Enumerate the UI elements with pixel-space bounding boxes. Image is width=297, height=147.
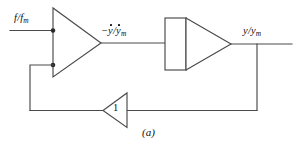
label-output-numerator: y bbox=[243, 25, 248, 36]
label-output-subscript: m bbox=[256, 29, 261, 38]
label-input-subscript: m bbox=[23, 16, 28, 25]
figure-caption: (a) bbox=[0, 126, 297, 138]
label-mid-numerator: y bbox=[108, 26, 113, 37]
summing-amplifier-body[interactable] bbox=[53, 8, 101, 77]
label-output-denominator: y bbox=[251, 25, 256, 36]
integrator-rectangle[interactable] bbox=[165, 18, 186, 70]
figure-container: f/fm −y/ym y/ym 1 (a) bbox=[0, 0, 297, 147]
summing-input-dot-top bbox=[51, 28, 56, 33]
label-output-signal: y/ym bbox=[243, 26, 261, 37]
label-mid-denominator: y bbox=[116, 26, 121, 37]
integrator-triangle[interactable] bbox=[186, 18, 231, 70]
label-mid-signal: −y/ym bbox=[101, 26, 126, 37]
wire-feedback-riser bbox=[30, 65, 53, 111]
block-diagram-canvas bbox=[0, 0, 297, 147]
label-input-signal: f/fm bbox=[14, 13, 29, 24]
label-feedback-gain: 1 bbox=[113, 103, 118, 114]
label-mid-subscript: m bbox=[121, 29, 126, 38]
